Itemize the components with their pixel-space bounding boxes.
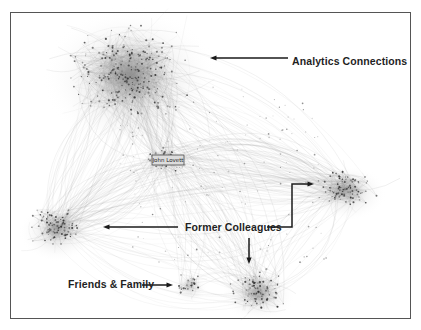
center-node-label-text: John Lovett <box>152 157 185 164</box>
annotation-friends-family-label: Friends & Family <box>68 278 154 290</box>
network-graph-svg: Analytics Connections Former Colleagues … <box>0 0 421 330</box>
annotation-former-colleagues-label: Former Colleagues <box>185 221 282 233</box>
network-graph-figure: Analytics Connections Former Colleagues … <box>0 0 421 330</box>
annotation-analytics-connections-label: Analytics Connections <box>292 55 407 67</box>
center-node-label: John Lovett <box>152 155 185 165</box>
